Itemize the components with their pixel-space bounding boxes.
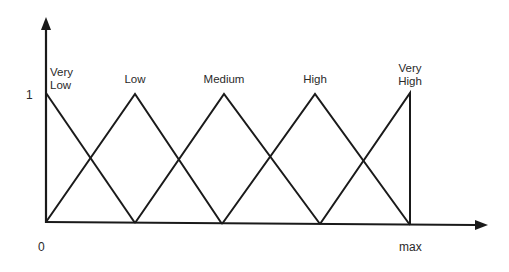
x-axis-arrow-icon [475, 220, 488, 230]
mf-high [222, 94, 410, 225]
membership-function-diagram [0, 0, 509, 272]
label-low: Low [115, 73, 155, 86]
label-very-high: Very High [390, 62, 430, 88]
x-tick-label-zero: 0 [38, 240, 45, 254]
mf-low [46, 94, 222, 224]
x-tick-label-max: max [399, 240, 422, 254]
y-tick-label-one: 1 [26, 88, 33, 102]
label-very-low: Very Low [50, 66, 84, 92]
x-axis [45, 222, 476, 225]
y-axis-arrow-icon [41, 17, 51, 30]
label-high: High [295, 73, 335, 86]
mf-medium [135, 94, 320, 224]
label-medium: Medium [194, 73, 254, 86]
